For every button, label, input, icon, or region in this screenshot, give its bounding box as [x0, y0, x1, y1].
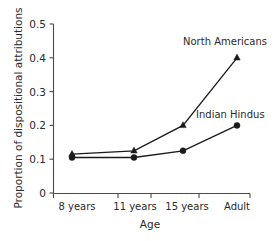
y-tick-label-0.1: 0.1: [29, 153, 46, 165]
y-axis-title: Proportion of dispositional attributions: [12, 7, 24, 208]
y-tick-label-0.2: 0.2: [29, 119, 46, 131]
y-tick-label-0: 0: [39, 187, 46, 199]
y-tick-label-0.3: 0.3: [29, 86, 46, 98]
x-tick-label-adult: Adult: [224, 201, 250, 212]
series-label-north-americans: North Americans: [183, 36, 267, 47]
series-label-indian-hindus: Indian Hindus: [196, 109, 265, 120]
chart-container: 0.5 0.4 0.3 0.2 0.1 0 8 years 11 years 1…: [0, 0, 277, 241]
y-axis-ticks: [50, 24, 54, 193]
x-axis-title: Age: [140, 218, 160, 230]
series-markers-north-americans: [69, 54, 240, 156]
line-chart: 0.5 0.4 0.3 0.2 0.1 0 8 years 11 years 1…: [0, 0, 277, 241]
x-axis-ticks: [54, 194, 251, 199]
x-tick-label-15-years: 15 years: [165, 201, 208, 212]
x-tick-label-11-years: 11 years: [113, 201, 156, 212]
series-line-north-americans: [72, 58, 237, 154]
y-tick-label-0.4: 0.4: [29, 52, 46, 64]
x-tick-label-8-years: 8 years: [58, 201, 95, 212]
y-tick-label-0.5: 0.5: [29, 18, 46, 30]
